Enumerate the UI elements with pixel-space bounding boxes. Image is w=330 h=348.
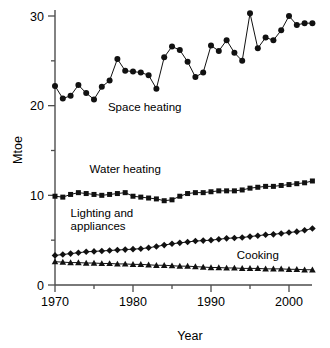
- data-point-circle: [239, 58, 245, 64]
- data-point-square: [131, 194, 136, 199]
- data-point-diamond: [75, 249, 82, 256]
- data-point-square: [170, 197, 175, 202]
- data-point-diamond: [106, 247, 113, 254]
- data-point-diamond: [177, 240, 184, 247]
- line-chart: 0102030 1970198019902000 Space heatingWa…: [0, 0, 330, 348]
- data-point-square: [232, 188, 237, 193]
- series-label-water-heating: Water heating: [90, 163, 161, 175]
- data-point-diamond: [309, 225, 316, 232]
- data-point-diamond: [52, 252, 59, 259]
- data-point-diamond: [216, 236, 223, 243]
- data-point-square: [146, 196, 151, 201]
- y-tick-label: 20: [30, 99, 44, 113]
- data-point-circle: [153, 86, 159, 92]
- data-point-square: [162, 198, 167, 203]
- data-point-circle: [83, 90, 89, 96]
- data-point-square: [177, 194, 182, 199]
- data-point-circle: [216, 48, 222, 54]
- data-point-diamond: [184, 239, 191, 246]
- data-point-diamond: [122, 246, 129, 253]
- series-space-heating: [52, 10, 315, 102]
- data-point-circle: [169, 43, 175, 49]
- data-point-square: [193, 190, 198, 195]
- data-series-group: [52, 10, 316, 272]
- data-point-diamond: [262, 231, 269, 238]
- x-axis-title: Year: [177, 329, 202, 343]
- data-point-diamond: [231, 235, 238, 242]
- data-point-circle: [263, 35, 269, 41]
- data-point-square: [138, 195, 143, 200]
- data-point-circle: [91, 96, 97, 102]
- y-tick-label: 10: [30, 189, 44, 203]
- data-point-square: [201, 190, 206, 195]
- y-tick-label: 0: [37, 279, 44, 293]
- data-point-diamond: [255, 232, 262, 239]
- data-point-square: [99, 193, 104, 198]
- x-tick-label: 1970: [41, 295, 69, 309]
- y-tick-label: 30: [30, 10, 44, 24]
- data-point-square: [240, 187, 245, 192]
- data-point-circle: [255, 45, 261, 51]
- data-point-diamond: [200, 237, 207, 244]
- y-axis-title: Mtoe: [11, 136, 25, 164]
- data-point-diamond: [91, 248, 98, 255]
- chart-container: 0102030 1970198019902000 Space heatingWa…: [0, 0, 330, 348]
- data-point-square: [123, 190, 128, 195]
- y-axis-tick-labels: 0102030: [30, 10, 44, 293]
- data-point-diamond: [67, 250, 74, 257]
- data-point-circle: [122, 68, 128, 74]
- data-point-circle: [294, 22, 300, 28]
- data-point-diamond: [278, 230, 285, 237]
- data-point-diamond: [270, 231, 277, 238]
- data-point-circle: [270, 37, 276, 43]
- data-point-square: [84, 191, 89, 196]
- data-point-square: [76, 190, 81, 195]
- data-point-square: [279, 183, 284, 188]
- data-point-diamond: [60, 251, 67, 258]
- data-point-diamond: [208, 237, 215, 244]
- x-axis-tick-labels: 1970198019902000: [41, 295, 303, 309]
- data-point-circle: [60, 95, 66, 101]
- x-tick-label: 1980: [119, 295, 147, 309]
- series-label-lighting-and-appliances: Lighting andappliances: [71, 207, 134, 232]
- data-point-square: [216, 188, 221, 193]
- data-point-diamond: [138, 245, 145, 252]
- data-point-square: [209, 189, 214, 194]
- data-point-diamond: [247, 233, 254, 240]
- series-label-cooking: Cooking: [237, 249, 279, 261]
- x-axis-ticks: [55, 285, 289, 292]
- data-point-diamond: [161, 242, 168, 249]
- data-point-diamond: [301, 227, 308, 234]
- data-point-circle: [99, 84, 105, 90]
- data-point-circle: [52, 83, 58, 89]
- data-point-square: [154, 196, 159, 201]
- data-point-square: [53, 194, 58, 199]
- data-point-circle: [114, 56, 120, 62]
- series-polyline: [55, 13, 312, 99]
- data-point-diamond: [239, 234, 246, 241]
- data-point-square: [248, 186, 253, 191]
- data-point-square: [294, 181, 299, 186]
- data-point-circle: [146, 72, 152, 78]
- data-point-square: [92, 192, 97, 197]
- data-point-diamond: [294, 228, 301, 235]
- data-point-circle: [130, 69, 136, 75]
- data-point-circle: [177, 47, 183, 53]
- data-point-square: [68, 192, 73, 197]
- data-point-circle: [309, 20, 315, 26]
- data-point-diamond: [286, 229, 293, 236]
- data-point-circle: [208, 43, 214, 49]
- x-tick-label: 1990: [197, 295, 225, 309]
- data-point-circle: [200, 69, 206, 75]
- data-point-circle: [138, 69, 144, 75]
- data-point-square: [60, 195, 65, 200]
- data-point-circle: [68, 93, 74, 99]
- data-point-diamond: [153, 243, 160, 250]
- series-water-heating: [53, 178, 315, 203]
- data-point-square: [263, 184, 268, 189]
- series-label-space-heating: Space heating: [108, 101, 182, 113]
- data-point-circle: [192, 74, 198, 80]
- x-tick-label: 2000: [275, 295, 303, 309]
- data-point-diamond: [130, 246, 137, 253]
- data-point-square: [255, 185, 260, 190]
